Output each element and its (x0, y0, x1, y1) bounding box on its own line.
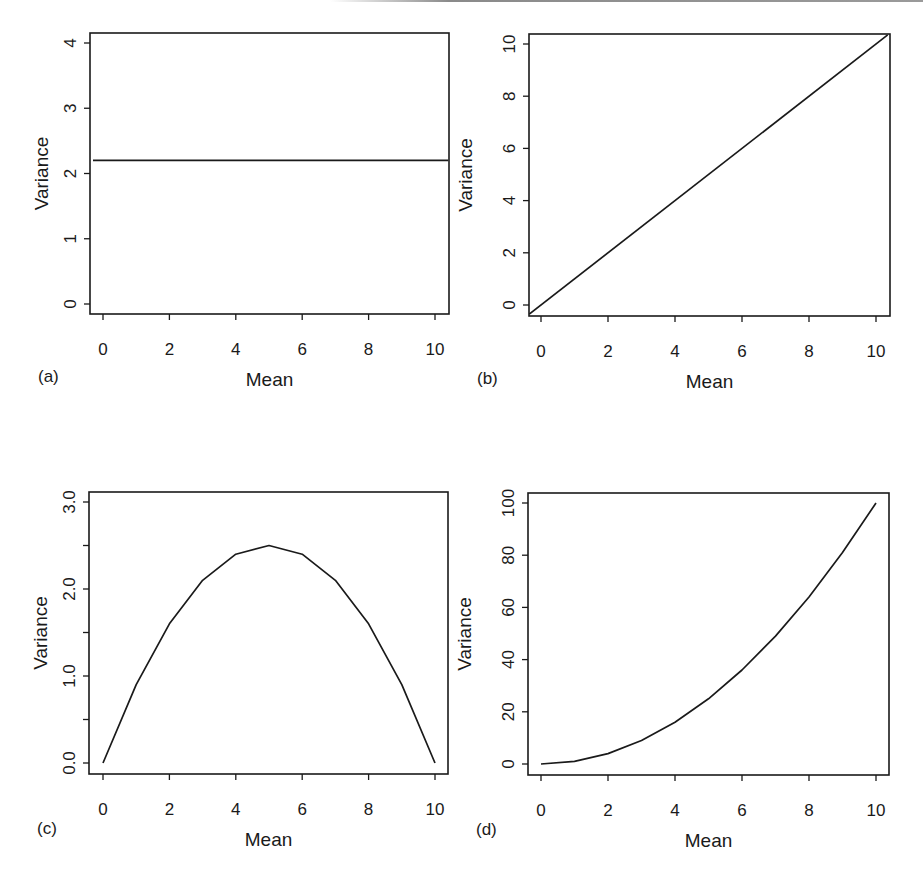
figure: 024681001234MeanVariance(a) 024681002468… (0, 0, 923, 892)
y-tick-label: 6 (500, 144, 519, 153)
x-tick-label: 4 (670, 342, 679, 361)
panel-b: 02468100246810MeanVariance(b) (455, 34, 890, 392)
x-tick-label: 0 (98, 800, 107, 819)
x-tick-label: 2 (165, 340, 174, 359)
x-tick-label: 2 (603, 801, 612, 820)
x-tick-label: 2 (165, 800, 174, 819)
y-axis-label: Variance (454, 597, 475, 671)
x-tick-label: 8 (804, 342, 813, 361)
y-axis-label: Variance (30, 596, 51, 670)
y-tick-label: 10 (500, 35, 519, 54)
y-tick-label: 40 (499, 650, 518, 669)
x-tick-label: 10 (426, 800, 445, 819)
panel-label: (c) (37, 819, 57, 838)
y-tick-label: 4 (500, 196, 519, 205)
y-axis-label: Variance (455, 138, 476, 212)
x-tick-label: 4 (670, 801, 679, 820)
y-tick-label: 0.0 (60, 751, 79, 775)
series-line-variance (529, 35, 887, 314)
x-axis-label: Mean (246, 369, 294, 390)
x-tick-label: 8 (364, 340, 373, 359)
x-tick-label: 8 (364, 800, 373, 819)
y-tick-label: 0 (499, 759, 518, 768)
x-axis-label: Mean (245, 829, 293, 850)
panel-d: 0246810020406080100MeanVariance(d) (454, 489, 889, 851)
y-tick-label: 2 (500, 248, 519, 257)
y-tick-label: 8 (500, 91, 519, 100)
y-tick-label: 80 (499, 546, 518, 565)
x-tick-label: 8 (804, 801, 813, 820)
plot-frame (89, 492, 448, 774)
x-tick-label: 10 (867, 801, 886, 820)
x-tick-label: 0 (536, 801, 545, 820)
plot-frame (90, 33, 449, 314)
x-tick-label: 4 (231, 340, 240, 359)
x-tick-label: 0 (98, 340, 107, 359)
y-tick-label: 2.0 (60, 577, 79, 601)
y-tick-label: 2 (61, 169, 80, 178)
x-tick-label: 6 (297, 340, 306, 359)
x-tick-label: 0 (536, 342, 545, 361)
panel-c: 02468100.01.02.03.0MeanVariance(c) (30, 490, 448, 850)
y-tick-label: 3.0 (60, 490, 79, 514)
panel-label: (b) (477, 369, 498, 388)
y-tick-label: 0 (500, 300, 519, 309)
x-axis-label: Mean (686, 371, 734, 392)
x-tick-label: 6 (737, 801, 746, 820)
y-tick-label: 1 (61, 234, 80, 243)
x-tick-label: 6 (297, 800, 306, 819)
y-tick-label: 3 (61, 104, 80, 113)
y-axis-label: Variance (31, 137, 52, 211)
x-tick-label: 6 (737, 342, 746, 361)
y-tick-label: 100 (499, 489, 518, 517)
y-tick-label: 0 (61, 299, 80, 308)
x-axis-label: Mean (685, 830, 733, 851)
y-tick-label: 60 (499, 598, 518, 617)
series-line-variance (103, 546, 435, 764)
x-tick-label: 10 (867, 342, 886, 361)
y-tick-label: 4 (61, 38, 80, 47)
plot-frame (528, 493, 889, 775)
x-tick-label: 10 (426, 340, 445, 359)
panel-label: (a) (38, 367, 59, 386)
y-tick-label: 20 (499, 702, 518, 721)
y-tick-label: 1.0 (60, 664, 79, 688)
x-tick-label: 4 (231, 800, 240, 819)
x-tick-label: 2 (603, 342, 612, 361)
panel-label: (d) (476, 820, 497, 839)
panel-a: 024681001234MeanVariance(a) (31, 33, 449, 390)
series-line-variance (541, 503, 876, 764)
